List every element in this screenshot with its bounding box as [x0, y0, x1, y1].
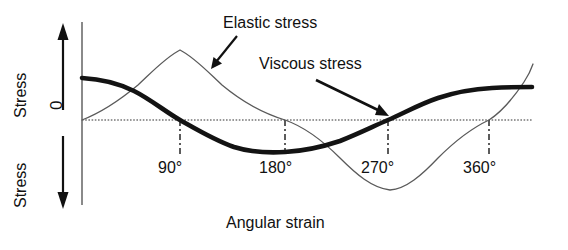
down-arrow-icon: [58, 136, 69, 209]
y-axis-label-top: Stress: [12, 73, 30, 118]
elastic-stress-pointer-arrow: [211, 36, 237, 69]
x-tick-marks: [180, 120, 489, 154]
plot-canvas: [0, 0, 568, 250]
annotation-viscous-stress: Viscous stress: [259, 55, 362, 73]
x-tick-label-270: 270°: [361, 159, 394, 177]
annotation-elastic-stress: Elastic stress: [223, 14, 317, 32]
y-axis-label-bottom: Stress: [12, 163, 30, 208]
up-arrow-icon: [58, 23, 69, 110]
y-axis-zero-label: 0: [47, 101, 67, 110]
x-tick-label-360: 360°: [463, 159, 496, 177]
x-tick-label-180: 180°: [259, 159, 292, 177]
x-tick-label-90: 90°: [158, 159, 182, 177]
series-viscous-stress: [82, 78, 532, 152]
stress-strain-chart: Stress Stress 0 90° 180° 270° 360° Angul…: [0, 0, 568, 250]
x-axis-title: Angular strain: [226, 214, 325, 232]
viscous-stress-pointer-arrow: [316, 80, 389, 116]
